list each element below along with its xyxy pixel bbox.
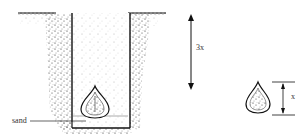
planting-diagram-svg	[0, 0, 306, 140]
bulb-reference	[246, 82, 270, 113]
depth-arrow	[188, 14, 194, 90]
depth-label: 3x	[196, 43, 204, 52]
sand-label: sand	[12, 116, 27, 125]
bulb-height-label: x	[291, 92, 295, 101]
diagram: 3x x sand	[0, 0, 306, 140]
